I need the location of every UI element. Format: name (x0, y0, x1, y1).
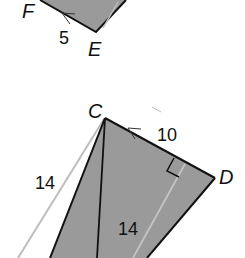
stray-mark (152, 107, 161, 112)
side-label-cd: 10 (157, 125, 177, 145)
vertex-label-c: C (88, 100, 103, 122)
vertex-label-e: E (88, 38, 102, 60)
vertex-label-f: F (22, 0, 36, 22)
side-label-fe: 5 (59, 28, 69, 48)
geometry-diagram: F E 5 C D 10 14 14 (0, 0, 245, 258)
vertex-label-d: D (219, 166, 233, 188)
top-figure: F E 5 (22, 0, 126, 60)
side-label-height: 14 (118, 219, 138, 239)
top-shape-fill (40, 0, 126, 32)
bottom-figure: C D 10 14 14 (18, 100, 233, 258)
side-label-left-slant: 14 (35, 173, 55, 193)
